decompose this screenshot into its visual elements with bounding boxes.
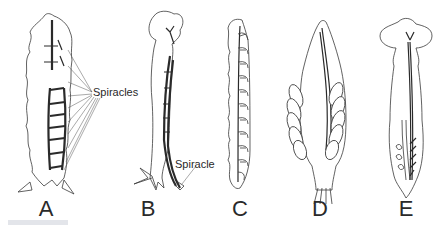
larval-tracheal-systems-diagram: Spiracles A Spiracle B C (0, 0, 446, 227)
panel-d-trachea (320, 28, 331, 150)
panel-e-head-branches (406, 32, 414, 40)
panel-b-label: B (141, 196, 156, 221)
panel-d-larva: D (284, 21, 347, 222)
panel-d-gills-left (284, 83, 309, 162)
panel-e-body-outline (380, 18, 432, 198)
panel-c-gill-tufts (238, 26, 248, 182)
panel-e-label: E (399, 196, 414, 221)
cropped-caption-fragment (8, 220, 68, 225)
panel-e-rectal-lines (402, 120, 410, 180)
panel-b-annotation: Spiracle (175, 158, 215, 170)
panel-c-larva: C (228, 19, 250, 221)
panel-a-larva: Spiracles A (18, 14, 139, 221)
panel-b-anal-papillae (134, 168, 156, 188)
panel-a-label: A (39, 196, 54, 221)
panel-d-label: D (312, 196, 328, 221)
panel-b-larva: Spiracle B (134, 11, 215, 221)
panel-a-tail-appendages (18, 180, 74, 194)
panel-a-thoracic-branches (44, 40, 64, 66)
panel-c-label: C (232, 196, 248, 221)
panel-a-tracheal-trunk (49, 20, 66, 170)
panel-e-larva: E (380, 18, 432, 221)
panel-a-annotation: Spiracles (93, 86, 139, 98)
